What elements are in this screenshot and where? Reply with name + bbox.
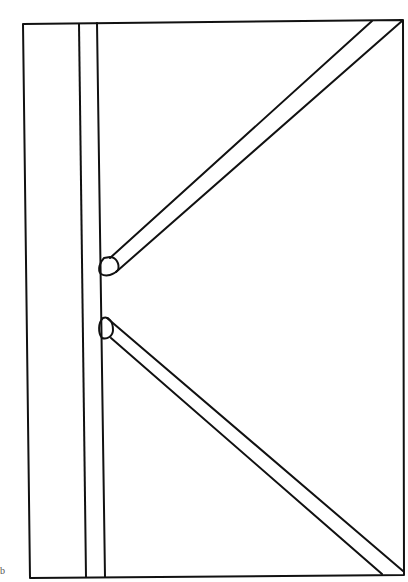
post-right-edge [97,23,105,577]
frame-diagram [0,0,408,582]
lower-brace-edge-1 [107,318,403,571]
upper-joint [99,257,118,275]
upper-brace-edge-2 [116,21,402,272]
upper-brace-edge-1 [110,21,372,258]
lower-brace-edge-2 [111,338,382,574]
post-left-edge [79,24,86,577]
